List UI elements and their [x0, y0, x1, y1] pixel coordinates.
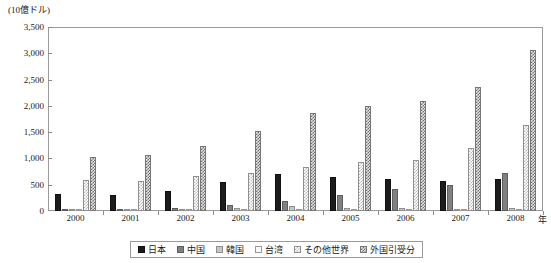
x-axis-tick-mark [268, 211, 269, 215]
bar-韓国-2006 [399, 208, 405, 211]
bar-日本-2003 [220, 182, 226, 211]
y-axis-unit-label: (10億ドル) [8, 3, 50, 16]
y-axis-tick-label: 0 [0, 206, 44, 216]
legend-item-row: その他世界 [294, 243, 349, 256]
bar-日本-2006 [385, 179, 391, 211]
bar-日本-2000 [55, 194, 61, 211]
bar-日本-2007 [440, 181, 446, 211]
bar-外国引受分-2001 [145, 155, 151, 211]
y-axis-tick-label: 3,000 [0, 48, 44, 58]
y-axis-tick-label: 2,500 [0, 75, 44, 85]
light-hatch-swatch [294, 246, 301, 253]
x-axis-tick-mark [103, 211, 104, 215]
x-axis-tick-mark [323, 211, 324, 215]
legend-item-label: 外国引受分 [370, 243, 415, 256]
bar-外国引受分-2005 [365, 106, 371, 211]
bar-台湾-2000 [76, 209, 82, 211]
legend-item-label: 日本 [148, 243, 166, 256]
light-gray-swatch [216, 246, 223, 253]
bar-日本-2004 [275, 174, 281, 211]
y-axis-tick-label: 3,500 [0, 22, 44, 32]
bar-その他世界-2004 [303, 167, 309, 211]
legend-item-label: 台湾 [265, 243, 283, 256]
bar-韓国-2003 [234, 208, 240, 211]
dark-hatch-swatch [360, 246, 367, 253]
legend-item-korea: 韓国 [216, 243, 244, 256]
bar-中国-2006 [392, 189, 398, 211]
x-axis-tick-label: 2005 [342, 213, 360, 223]
y-axis-tick-label: 2,000 [0, 101, 44, 111]
bar-日本-2008 [495, 179, 501, 211]
x-axis-tick-label: 2004 [287, 213, 305, 223]
bar-その他世界-2000 [83, 180, 89, 211]
bar-韓国-2007 [454, 209, 460, 211]
bar-その他世界-2002 [193, 176, 199, 211]
y-axis-tick-label: 500 [0, 180, 44, 190]
bar-中国-2007 [447, 185, 453, 211]
bar-その他世界-2003 [248, 173, 254, 211]
bar-その他世界-2005 [358, 162, 364, 211]
legend-item-label: その他世界 [304, 243, 349, 256]
bar-外国引受分-2008 [530, 50, 536, 211]
bar-その他世界-2001 [138, 181, 144, 211]
bar-その他世界-2006 [413, 160, 419, 211]
x-axis-tick-label: 2008 [507, 213, 525, 223]
x-axis-tick-label: 2002 [177, 213, 195, 223]
bar-日本-2002 [165, 191, 171, 212]
legend-item-label: 中国 [187, 243, 205, 256]
bar-日本-2005 [330, 177, 336, 211]
bar-中国-2000 [62, 209, 68, 211]
legend-item-japan: 日本 [138, 243, 166, 256]
bar-外国引受分-2006 [420, 101, 426, 211]
bar-中国-2005 [337, 195, 343, 211]
x-axis-tick-mark [433, 211, 434, 215]
bar-その他世界-2008 [523, 125, 529, 211]
white-swatch [255, 246, 262, 253]
bar-外国引受分-2000 [90, 157, 96, 211]
bar-台湾-2001 [131, 209, 137, 211]
bar-台湾-2002 [186, 209, 192, 211]
x-axis-tick-mark [158, 211, 159, 215]
bar-台湾-2005 [351, 209, 357, 211]
bar-台湾-2008 [516, 209, 522, 211]
bar-中国-2004 [282, 201, 288, 212]
x-axis-tick-label: 2000 [67, 213, 85, 223]
x-axis-tick-mark [488, 211, 489, 215]
bar-台湾-2004 [296, 209, 302, 211]
bar-外国引受分-2003 [255, 131, 261, 211]
y-axis-tick-label: 1,000 [0, 153, 44, 163]
bar-その他世界-2007 [468, 148, 474, 211]
x-axis-tick-mark [378, 211, 379, 215]
x-axis-tick-mark [213, 211, 214, 215]
y-axis-tick-label: 1,500 [0, 127, 44, 137]
x-axis-unit-label: 年 [538, 213, 547, 226]
bar-中国-2001 [117, 209, 123, 211]
chart-legend: 日本中国韓国台湾その他世界外国引受分 [130, 241, 423, 258]
x-axis-tick-label: 2003 [232, 213, 250, 223]
bar-台湾-2007 [461, 209, 467, 211]
bar-日本-2001 [110, 195, 116, 211]
bar-外国引受分-2004 [310, 113, 316, 211]
legend-item-label: 韓国 [226, 243, 244, 256]
bar-中国-2002 [172, 208, 178, 211]
bar-中国-2008 [502, 173, 508, 211]
bar-chart: (10億ドル) 3,5003,0002,5002,0001,5001,00050… [0, 0, 551, 263]
legend-item-foreign: 外国引受分 [360, 243, 415, 256]
bar-中国-2003 [227, 205, 233, 211]
bar-韓国-2005 [344, 208, 350, 211]
bar-韓国-2008 [509, 208, 515, 211]
bars-layer [48, 27, 543, 211]
bar-韓国-2004 [289, 206, 295, 211]
bar-外国引受分-2007 [475, 87, 481, 211]
bar-台湾-2006 [406, 209, 412, 211]
legend-item-china: 中国 [177, 243, 205, 256]
x-axis-tick-label: 2007 [452, 213, 470, 223]
bar-韓国-2002 [179, 209, 185, 211]
bar-韓国-2001 [124, 209, 130, 211]
bar-外国引受分-2002 [200, 146, 206, 211]
legend-item-taiwan: 台湾 [255, 243, 283, 256]
x-axis-tick-label: 2001 [122, 213, 140, 223]
bar-台湾-2003 [241, 209, 247, 211]
solid-black-swatch [138, 246, 145, 253]
x-axis-tick-label: 2006 [397, 213, 415, 223]
